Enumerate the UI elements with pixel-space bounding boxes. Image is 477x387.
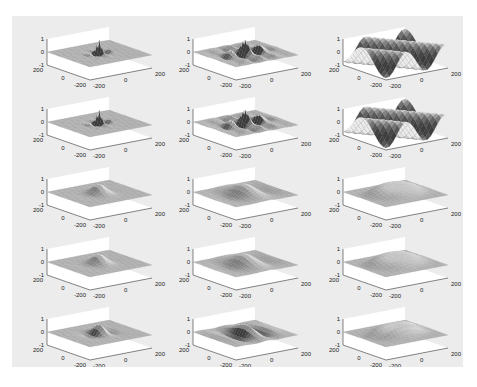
y-tick-label: 0 (61, 285, 65, 291)
y-tick-label: -200 (220, 362, 233, 367)
x-tick-label: 0 (420, 217, 424, 223)
x-tick-label: -200 (93, 153, 106, 159)
x-tick-label: 0 (270, 287, 274, 293)
y-tick-label: 0 (207, 75, 211, 81)
y-tick-label: 200 (179, 67, 190, 73)
x-tick-label: -200 (93, 223, 106, 229)
z-tick-label: 0 (337, 49, 341, 55)
x-tick-label: 200 (301, 211, 312, 217)
y-tick-label: 200 (179, 137, 190, 143)
subplot-r2c2: -101-2000200-2000200 (179, 97, 312, 159)
x-tick-label: 0 (420, 77, 424, 83)
x-tick-label: -200 (93, 83, 106, 89)
subplot-r2c3: -101-2000200-2000200 (329, 97, 462, 159)
z-tick-label: 0 (187, 259, 191, 265)
y-tick-label: -200 (220, 82, 233, 88)
subplot-r1c2: -101-2000200-2000200 (179, 27, 312, 89)
z-tick-label: 1 (337, 176, 341, 182)
y-tick-label: 200 (329, 347, 340, 353)
subplot-r5c2: -101-2000200-2000200 (179, 307, 312, 367)
subplot-r3c2: -101-2000200-2000200 (179, 167, 312, 229)
y-tick-label: 0 (61, 145, 65, 151)
y-tick-label: -200 (220, 152, 233, 158)
y-tick-label: 0 (357, 145, 361, 151)
x-tick-label: 200 (451, 211, 462, 217)
x-tick-label: 200 (301, 71, 312, 77)
x-tick-label: 200 (155, 71, 166, 77)
x-tick-label: 200 (301, 281, 312, 287)
z-tick-label: 0 (41, 259, 45, 265)
x-tick-label: 0 (124, 217, 128, 223)
x-tick-label: 200 (301, 141, 312, 147)
z-tick-label: 0 (187, 119, 191, 125)
y-tick-label: -200 (74, 222, 87, 228)
y-tick-label: 0 (357, 75, 361, 81)
y-tick-label: 0 (357, 215, 361, 221)
figure-area: -101-2000200-2000200-101-2000200-2000200… (12, 16, 463, 367)
z-tick-label: 0 (41, 189, 45, 195)
subplot-r3c1: -101-2000200-2000200 (33, 167, 166, 229)
y-tick-label: 0 (357, 285, 361, 291)
z-tick-label: 1 (41, 176, 45, 182)
y-tick-label: 0 (61, 355, 65, 361)
z-tick-label: 1 (41, 316, 45, 322)
y-tick-label: -200 (370, 362, 383, 367)
x-tick-label: 200 (451, 351, 462, 357)
x-tick-label: -200 (239, 153, 252, 159)
x-tick-label: 0 (420, 357, 424, 363)
y-tick-label: 200 (329, 67, 340, 73)
figure-caption (12, 381, 472, 387)
y-tick-label: -200 (370, 152, 383, 158)
x-tick-label: -200 (239, 83, 252, 89)
subplot-r1c3: -101-2000200-2000200 (329, 27, 462, 89)
z-tick-label: 0 (41, 49, 45, 55)
y-tick-label: 0 (207, 145, 211, 151)
subplot-r1c1: -101-2000200-2000200 (33, 27, 166, 89)
x-tick-label: -200 (239, 363, 252, 367)
y-tick-label: 0 (207, 285, 211, 291)
z-tick-label: 1 (41, 36, 45, 42)
y-tick-label: 0 (61, 75, 65, 81)
x-tick-label: -200 (389, 223, 402, 229)
z-tick-label: 0 (337, 119, 341, 125)
y-tick-label: -200 (370, 292, 383, 298)
z-tick-label: 1 (41, 106, 45, 112)
x-tick-label: 200 (301, 351, 312, 357)
y-tick-label: -200 (74, 362, 87, 367)
z-tick-label: 1 (187, 106, 191, 112)
x-tick-label: 0 (270, 217, 274, 223)
subplot-r2c1: -101-2000200-2000200 (33, 97, 166, 159)
y-tick-label: -200 (370, 222, 383, 228)
x-tick-label: 200 (155, 351, 166, 357)
x-tick-label: 200 (155, 211, 166, 217)
z-tick-label: 0 (41, 119, 45, 125)
x-tick-label: 0 (124, 357, 128, 363)
y-tick-label: 200 (329, 137, 340, 143)
z-tick-label: 0 (41, 329, 45, 335)
x-tick-label: -200 (389, 153, 402, 159)
subplot-r3c3: -101-2000200-2000200 (329, 167, 462, 229)
z-tick-label: 1 (41, 246, 45, 252)
y-tick-label: 200 (179, 347, 190, 353)
y-tick-label: 0 (207, 355, 211, 361)
z-tick-label: 1 (337, 106, 341, 112)
z-tick-label: 1 (187, 316, 191, 322)
y-tick-label: -200 (74, 82, 87, 88)
z-tick-label: 1 (187, 176, 191, 182)
subplot-grid: -101-2000200-2000200-101-2000200-2000200… (12, 16, 463, 367)
x-tick-label: 200 (155, 141, 166, 147)
y-tick-label: 200 (329, 207, 340, 213)
subplot-r4c3: -101-2000200-2000200 (329, 237, 462, 299)
x-tick-label: 0 (124, 287, 128, 293)
x-tick-label: 0 (420, 147, 424, 153)
y-tick-label: -200 (74, 152, 87, 158)
x-tick-label: -200 (389, 83, 402, 89)
subplot-r5c3: -101-2000200-2000200 (329, 307, 462, 367)
z-tick-label: 1 (337, 246, 341, 252)
x-tick-label: 200 (451, 71, 462, 77)
z-tick-label: 0 (337, 259, 341, 265)
z-tick-label: 0 (187, 49, 191, 55)
subplot-r4c1: -101-2000200-2000200 (33, 237, 166, 299)
subplot-r5c1: -101-2000200-2000200 (33, 307, 166, 367)
y-tick-label: -200 (370, 82, 383, 88)
